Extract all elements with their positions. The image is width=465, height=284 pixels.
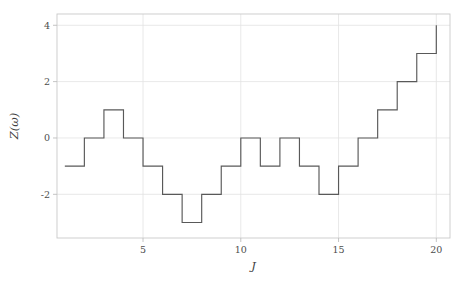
y-axis-tick-labels: 420-2 <box>41 20 50 200</box>
y-tick-label: 4 <box>44 20 50 31</box>
y-tick-label: -2 <box>41 189 50 200</box>
x-axis-tick-labels: 5101520 <box>140 244 442 255</box>
x-axis-ticks <box>143 238 436 242</box>
y-tick-label: 0 <box>44 132 50 143</box>
x-tick-label: 20 <box>430 244 442 255</box>
y-tick-label: 2 <box>44 76 50 87</box>
chart-figure: 5101520 420-2 J Z(ω) <box>0 0 465 284</box>
x-tick-label: 10 <box>235 244 247 255</box>
x-tick-label: 5 <box>140 244 146 255</box>
y-axis-title: Z(ω) <box>7 113 21 140</box>
y-axis-ticks <box>53 25 57 194</box>
x-tick-label: 15 <box>333 244 345 255</box>
x-axis-title: J <box>249 259 257 273</box>
plot-background <box>57 14 450 238</box>
step-plot: 5101520 420-2 J Z(ω) <box>0 0 465 284</box>
